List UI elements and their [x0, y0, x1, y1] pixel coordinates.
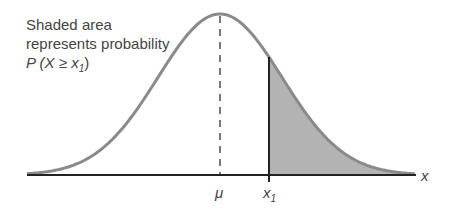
annotation: Shaded area represents probability P (X … [26, 15, 169, 78]
shaded-area [269, 57, 416, 175]
annotation-line1: Shaded area [26, 15, 169, 34]
x-axis-label: x [421, 166, 429, 185]
annotation-line2: represents probability [26, 34, 169, 53]
x1-label: x1 [263, 183, 276, 208]
mu-label: μ [215, 183, 223, 202]
annotation-line3: P (X ≥ x1) [26, 53, 169, 78]
